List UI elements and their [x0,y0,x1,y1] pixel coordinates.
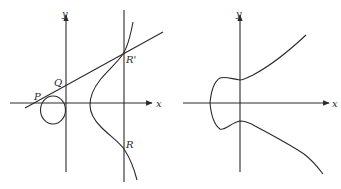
left-y-label: y [61,8,68,19]
single-component-curve [210,35,323,174]
right-x-label: x [332,98,338,109]
right-y-label: y [235,8,242,19]
point-label-r: R [125,139,134,150]
left-x-label: x [156,98,162,109]
elliptic-curve-figure: y x Q P R' R y x [0,0,341,189]
left-panel [10,10,163,182]
point-label-r-prime: R' [125,54,136,65]
point-label-p: P [33,91,41,102]
oval-component [41,96,66,124]
unbounded-component [90,22,137,180]
point-label-q: Q [54,77,62,88]
left-labels: y x Q P R' R [33,8,162,150]
secant-line [25,32,163,108]
right-panel [183,15,329,174]
right-labels: y x [235,8,338,109]
